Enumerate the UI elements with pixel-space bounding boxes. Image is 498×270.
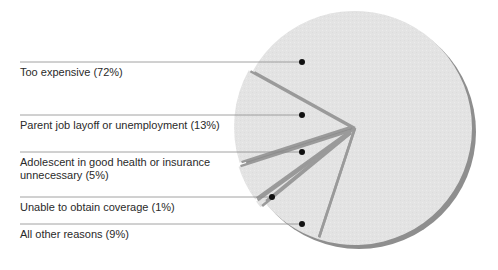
slice-label: Too expensive (72%) [20,66,250,79]
slice-marker-dot [299,112,305,118]
slice-marker-dot [299,59,305,65]
slice-label: Unable to obtain coverage (1%) [20,201,250,214]
slice-label: Adolescent in good health or insurance u… [20,156,250,182]
slice-marker-dot [269,194,275,200]
slice-label: Parent job layoff or unemployment (13%) [20,119,250,132]
slice-label: All other reasons (9%) [20,228,250,241]
slice-marker-dot [299,149,305,155]
slice-marker-dot [299,221,305,227]
